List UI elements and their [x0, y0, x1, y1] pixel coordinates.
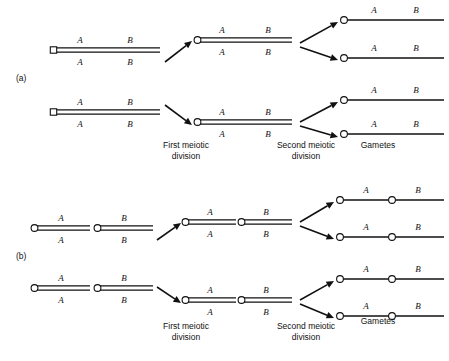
parent-cell-top-allele-bottom-0: A — [76, 57, 83, 67]
parent-cell-bottom: ABAB — [50, 97, 160, 129]
arrow-meiosis2-top-down-head — [330, 54, 338, 60]
parent-cell-b-bottom-chromA-allele-top-0: A — [57, 273, 64, 283]
meiosis1-b-bottom-chromA-allele-bottom-0: A — [206, 307, 213, 317]
panel-label-a: (a) — [16, 73, 27, 83]
arrow-meiosis1-bottom-head — [184, 118, 192, 125]
parent-cell-bottom-centromere — [50, 109, 56, 115]
gamete-b-2-chromB: B — [389, 222, 444, 240]
parent-cell-b-top-chromB-allele-top-0: B — [121, 213, 127, 223]
gamete-a-3-centromere — [341, 97, 348, 104]
stage-label-first-meiotic-division-line1: First meiotic — [163, 321, 210, 331]
arrow-meiosis2-bottom-up — [300, 102, 338, 122]
meiosis1-product-bottom: ABAB — [194, 107, 292, 139]
arrow-b-meiosis1-top-head — [173, 223, 181, 230]
parent-cell-b-top-chromB: BB — [94, 213, 153, 245]
meiosis1-b-top-chromA-allele-bottom-0: A — [206, 229, 213, 239]
meiosis1-b-bottom-chromA: AA — [182, 285, 236, 317]
parent-cell-top-allele-top-0: A — [76, 35, 83, 45]
gamete-b-1-chromB-centromere — [389, 197, 396, 204]
meiosis1-b-bottom-chromA-allele-top-0: A — [206, 285, 213, 295]
meiosis1-b-top-chromA-allele-top-0: A — [206, 207, 213, 217]
gamete-b-1-chromB-allele-0: B — [415, 185, 421, 195]
gamete-a-1-allele-0: A — [370, 5, 377, 15]
stage-label-second-meiotic-division-line1: Second meiotic — [277, 140, 336, 150]
meiosis1-product-bottom-allele-top-0: A — [218, 107, 225, 117]
meiosis1-product-top: ABAB — [194, 25, 292, 57]
arrow-meiosis2-top-down-shaft — [300, 47, 331, 58]
gamete-a-2-allele-0: A — [370, 43, 377, 53]
arrow-b-meiosis2-top-down — [300, 226, 334, 239]
parent-cell-b-top-chromA-allele-top-0: A — [57, 213, 64, 223]
arrow-b-meiosis2-bottom-down — [300, 304, 334, 318]
gamete-a-1-allele-1: B — [413, 5, 419, 15]
gamete-a-1-centromere — [341, 17, 348, 24]
arrow-b-meiosis1-top — [157, 223, 181, 240]
arrow-meiosis2-bottom-up-shaft — [300, 105, 331, 122]
parent-cell-b-top-chromB-centromere — [94, 225, 101, 232]
stage-label-second-meiotic-division-line1: Second meiotic — [277, 321, 336, 331]
gamete-b-3-chromA: A — [337, 264, 389, 282]
arrow-b-meiosis2-top-up — [300, 202, 334, 222]
gamete-b-4-chromB: B — [389, 301, 444, 319]
gamete-a-4: AB — [341, 119, 444, 137]
gamete-a-4-allele-0: A — [370, 119, 377, 129]
arrow-meiosis2-top-up — [300, 22, 338, 43]
gamete-a-4-centromere — [341, 131, 348, 138]
arrow-b-meiosis1-bottom-shaft — [157, 287, 175, 299]
arrow-meiosis1-bottom — [165, 105, 192, 125]
gamete-a-2-centromere — [341, 55, 348, 62]
gamete-b-3-chromB: B — [389, 264, 444, 282]
parent-cell-b-bottom-chromA-allele-bottom-0: A — [57, 295, 64, 305]
arrow-b-meiosis1-top-shaft — [157, 227, 175, 240]
meiosis-diagram: (a)ABABABABABABABABABABABABFirst meiotic… — [0, 0, 449, 361]
arrow-b-meiosis2-top-down-shaft — [300, 226, 327, 236]
gamete-b-3-chromB-allele-0: B — [415, 264, 421, 274]
parent-cell-bottom-allele-top-0: A — [76, 97, 83, 107]
meiosis1-product-bottom-allele-bottom-0: A — [218, 129, 225, 139]
gamete-a-4-allele-1: B — [413, 119, 419, 129]
gamete-a-3: AB — [341, 85, 444, 103]
parent-cell-bottom-allele-top-1: B — [127, 97, 133, 107]
arrow-b-meiosis2-bottom-up — [300, 281, 334, 300]
stage-label-first-meiotic-division-line1: First meiotic — [163, 140, 210, 150]
meiosis1-b-top-chromB: BB — [238, 207, 292, 239]
gamete-b-1-chromA: A — [337, 185, 389, 203]
meiosis1-product-top-allele-bottom-1: B — [265, 47, 271, 57]
meiosis1-product-bottom-centromere — [194, 119, 201, 126]
parent-cell-top-centromere — [50, 47, 56, 53]
parent-cell-b-top-chromA-allele-bottom-0: A — [57, 235, 64, 245]
stage-label-second-meiotic-division-line2: division — [292, 332, 321, 342]
parent-cell-b-bottom-chromA: AA — [31, 273, 90, 305]
meiosis1-product-top-allele-top-1: B — [265, 25, 271, 35]
gamete-b-2-chromB-centromere — [389, 234, 396, 241]
gamete-b-1-chromA-allele-0: A — [362, 185, 369, 195]
gamete-b-2-chromB-allele-0: B — [415, 222, 421, 232]
panel-label-b: (b) — [16, 251, 27, 261]
meiosis1-b-top-chromB-allele-top-0: B — [263, 207, 269, 217]
gamete-b-3-chromA-centromere — [337, 276, 344, 283]
parent-cell-b-bottom-chromB-allele-top-0: B — [121, 273, 127, 283]
arrow-meiosis2-bottom-down-shaft — [300, 126, 331, 135]
gamete-b-1-chromA-centromere — [337, 197, 344, 204]
parent-cell-top-allele-bottom-1: B — [127, 57, 133, 67]
gamete-b-3-chromB-centromere — [389, 276, 396, 283]
parent-cell-bottom-allele-bottom-0: A — [76, 119, 83, 129]
parent-cell-b-bottom-chromA-centromere — [31, 285, 38, 292]
gamete-a-3-allele-1: B — [413, 85, 419, 95]
meiosis1-product-top-centromere — [194, 37, 201, 44]
arrow-meiosis1-top — [165, 41, 192, 62]
arrow-meiosis2-bottom-down — [300, 126, 338, 138]
panel-b: (b)AABBAABBAABBAABBABABABABFirst meiotic… — [16, 185, 444, 342]
arrow-meiosis1-top-shaft — [165, 46, 186, 62]
parent-cell-b-bottom-chromB: BB — [94, 273, 153, 305]
gamete-b-4-chromA-allele-0: A — [362, 301, 369, 311]
parent-cell-top-allele-top-1: B — [127, 35, 133, 45]
parent-cell-b-top-chromA: AA — [31, 213, 90, 245]
meiosis1-b-bottom-chromB-allele-bottom-0: B — [263, 307, 269, 317]
parent-cell-b-bottom-chromB-centromere — [94, 285, 101, 292]
parent-cell-bottom-allele-bottom-1: B — [127, 119, 133, 129]
panel-a: (a)ABABABABABABABABABABABABFirst meiotic… — [16, 5, 444, 161]
meiosis1-b-top-chromB-allele-bottom-0: B — [263, 229, 269, 239]
parent-cell-b-top-chromB-allele-bottom-0: B — [121, 235, 127, 245]
meiosis1-product-bottom-allele-top-1: B — [265, 107, 271, 117]
